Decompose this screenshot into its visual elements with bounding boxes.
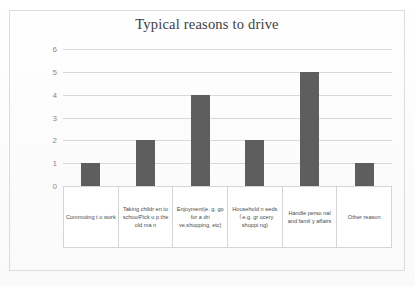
bar[interactable] xyxy=(136,140,155,186)
y-axis-tick-label: 1 xyxy=(53,159,57,168)
gridline: 2 xyxy=(63,140,392,141)
y-axis-tick-label: 6 xyxy=(53,45,57,54)
bar[interactable] xyxy=(81,163,100,186)
category-label-cell: Commuting t o work xyxy=(63,186,119,248)
y-axis-tick-label: 5 xyxy=(53,67,57,76)
chart-title: Typical reasons to drive xyxy=(9,16,405,33)
category-label-table: Commuting t o workTaking childr en to sc… xyxy=(63,186,392,248)
y-axis-tick-label: 0 xyxy=(53,182,57,191)
y-axis-tick-label: 4 xyxy=(53,90,57,99)
category-label-cell: Handle perso nal and famil y affairs xyxy=(282,186,338,248)
bar[interactable] xyxy=(300,72,319,186)
gridline: 6 xyxy=(63,49,392,50)
y-axis-tick-label: 3 xyxy=(53,113,57,122)
category-label-cell: Household n eeds （e.g. gr ocery shoppi n… xyxy=(227,186,283,248)
bar[interactable] xyxy=(245,140,264,186)
gridline: 1 xyxy=(63,163,392,164)
y-axis-tick-label: 2 xyxy=(53,136,57,145)
bar[interactable] xyxy=(191,95,210,186)
category-label-cell: Other reason xyxy=(336,186,392,248)
gridline: 3 xyxy=(63,118,392,119)
bar[interactable] xyxy=(355,163,374,186)
gridline: 5 xyxy=(63,72,392,73)
category-label-cell: Enjoyment(e. g. go for a dri ve,shopping… xyxy=(172,186,228,248)
plot-area: 0123456 xyxy=(63,49,392,186)
category-label-cell: Taking childr en to schoo/Pick u p the o… xyxy=(118,186,174,248)
gridline: 4 xyxy=(63,95,392,96)
